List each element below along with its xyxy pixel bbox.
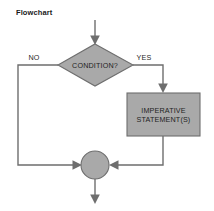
arrowhead-icon	[109, 160, 119, 170]
arrowhead-icon	[158, 84, 168, 94]
circle-shape	[81, 151, 109, 179]
arrowhead-icon	[90, 195, 100, 205]
flowchart-diagram: CONDITION? IMPERATIVE STATEMENT(S) NO YE…	[0, 0, 214, 211]
flowchart-canvas: Flowchart CONDITION?	[0, 0, 214, 211]
process-node-label-line2: STATEMENT(S)	[137, 115, 191, 124]
connector-node-merge[interactable]	[81, 151, 109, 179]
decision-node-condition[interactable]: CONDITION?	[58, 44, 133, 86]
process-node-label-line1: IMPERATIVE	[141, 106, 186, 115]
edge-entry-condition	[90, 20, 100, 45]
edge-statements-merge	[109, 136, 163, 170]
process-node-statements[interactable]: IMPERATIVE STATEMENT(S)	[127, 93, 200, 136]
edge-label-no: NO	[28, 53, 39, 62]
edge-condition-yes	[133, 65, 168, 93]
edge-condition-no	[18, 65, 82, 170]
decision-node-label: CONDITION?	[72, 61, 118, 70]
edge-merge-exit	[90, 179, 100, 204]
edge-label-yes: YES	[137, 53, 152, 62]
